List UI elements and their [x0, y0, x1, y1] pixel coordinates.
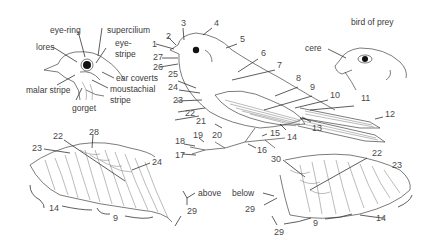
- num-6: 6: [261, 49, 266, 58]
- num-12: 12: [385, 110, 395, 119]
- upper-wing-num-22: 22: [53, 132, 63, 141]
- under-wing-num-23: 23: [392, 161, 402, 170]
- num-16: 16: [257, 146, 267, 155]
- raptor-head-drawing: [328, 48, 406, 90]
- under-wing-num-29-b: 29: [274, 228, 284, 237]
- label-moustachial-2: stripe: [110, 96, 131, 105]
- num-19: 19: [193, 131, 203, 140]
- label-below: below: [232, 189, 254, 198]
- num-5: 5: [240, 35, 245, 44]
- label-gorget: gorget: [72, 104, 96, 113]
- num-18: 18: [175, 137, 185, 146]
- num-14: 14: [287, 133, 297, 142]
- bird-topography-diagram: eye-ring supercilium lores eye- stripe e…: [0, 0, 437, 250]
- label-ear-coverts: ear coverts: [116, 74, 158, 83]
- num-21: 21: [196, 117, 206, 126]
- under-wing-num-29-a: 29: [245, 205, 255, 214]
- label-malar-stripe: malar stripe: [26, 86, 70, 95]
- num-15: 15: [270, 129, 280, 138]
- num-9: 9: [310, 83, 315, 92]
- upper-wing-num-23: 23: [32, 144, 42, 153]
- num-24: 24: [168, 83, 178, 92]
- num-8: 8: [296, 74, 301, 83]
- under-wing-drawing: [263, 154, 412, 225]
- num-13: 13: [312, 124, 322, 133]
- num-23: 23: [173, 96, 183, 105]
- upper-wing-num-24: 24: [152, 158, 162, 167]
- num-10: 10: [330, 91, 340, 100]
- num-3: 3: [181, 19, 186, 28]
- under-wing-num-30: 30: [271, 155, 281, 164]
- under-wing-num-14: 14: [376, 214, 386, 223]
- num-27: 27: [153, 53, 163, 62]
- upper-wing-num-9: 9: [113, 214, 118, 223]
- num-7: 7: [277, 61, 282, 70]
- num-11: 11: [361, 94, 370, 103]
- label-lores: lores: [36, 43, 54, 52]
- num-1: 1: [152, 40, 157, 49]
- upper-wing-num-29: 29: [187, 207, 197, 216]
- label-above: above: [198, 189, 221, 198]
- num-22: 22: [185, 109, 195, 118]
- label-eye-stripe-2: stripe: [115, 50, 136, 59]
- num-25: 25: [168, 70, 178, 79]
- under-wing-num-22: 22: [372, 149, 382, 158]
- label-bird-of-prey: bird of prey: [351, 18, 394, 27]
- label-cere: cere: [305, 44, 322, 53]
- label-supercilium: supercilium: [107, 26, 150, 35]
- label-moustachial-1: moustachial: [110, 85, 155, 94]
- diagram-drawing: [0, 0, 437, 250]
- num-17: 17: [175, 151, 185, 160]
- num-2: 2: [166, 32, 171, 41]
- num-4: 4: [214, 19, 219, 28]
- label-eye-stripe-1: eye-: [115, 39, 132, 48]
- under-wing-num-9: 9: [313, 219, 318, 228]
- upper-wing-num-28: 28: [89, 128, 99, 137]
- upper-wing-num-14: 14: [49, 204, 59, 213]
- num-20: 20: [212, 131, 222, 140]
- label-eye-ring: eye-ring: [50, 26, 81, 35]
- num-26: 26: [153, 63, 163, 72]
